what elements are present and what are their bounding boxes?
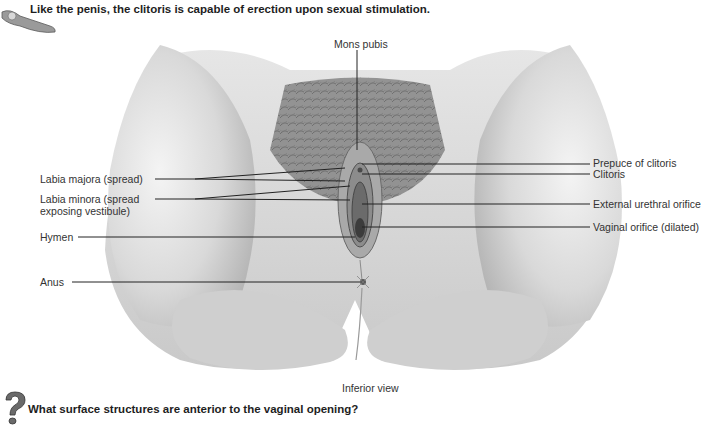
label-vaginal-orifice: Vaginal orifice (dilated) <box>593 221 699 233</box>
figure-caption: Inferior view <box>342 382 399 394</box>
review-question: What surface structures are anterior to … <box>28 403 358 415</box>
label-labia-majora: Labia majora (spread) <box>40 173 143 185</box>
label-anus: Anus <box>40 276 64 288</box>
label-external-urethral-orifice: External urethral orifice <box>593 198 701 210</box>
question-mark-icon <box>0 390 28 425</box>
label-labia-minora: Labia minora (spread exposing vestibule) <box>40 193 139 217</box>
fact-text: Like the penis, the clitoris is capable … <box>30 3 430 15</box>
label-hymen: Hymen <box>40 231 73 243</box>
label-labia-minora-line1: Labia minora (spread <box>40 193 139 205</box>
label-clitoris: Clitoris <box>593 168 625 180</box>
label-labia-minora-line2: exposing vestibule) <box>40 205 139 217</box>
label-mons-pubis: Mons pubis <box>334 38 388 50</box>
